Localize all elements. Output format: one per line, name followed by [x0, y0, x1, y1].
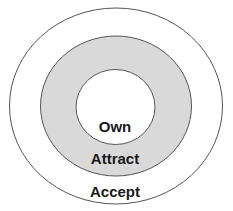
- label-accept: Accept: [90, 183, 140, 200]
- concentric-diagram: Own Attract Accept: [0, 0, 233, 211]
- label-attract: Attract: [91, 150, 139, 167]
- label-own: Own: [99, 118, 132, 135]
